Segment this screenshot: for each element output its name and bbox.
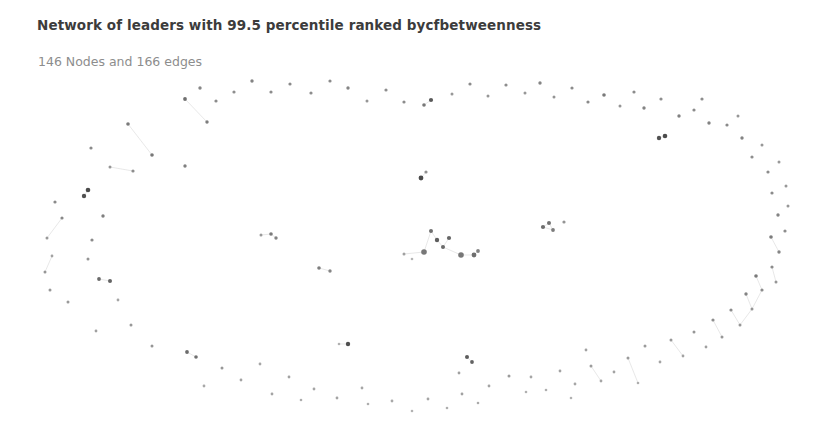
graph-node[interactable] xyxy=(185,350,189,354)
graph-node[interactable] xyxy=(721,336,724,339)
graph-node[interactable] xyxy=(508,375,511,378)
graph-node[interactable] xyxy=(574,383,577,386)
graph-node[interactable] xyxy=(644,345,647,348)
graph-node[interactable] xyxy=(346,86,349,89)
graph-node[interactable] xyxy=(309,91,312,94)
graph-node[interactable] xyxy=(487,95,490,98)
graph-node[interactable] xyxy=(570,397,573,400)
graph-node[interactable] xyxy=(131,169,134,172)
graph-node[interactable] xyxy=(269,232,273,236)
graph-node[interactable] xyxy=(361,387,364,390)
graph-node[interactable] xyxy=(751,308,754,311)
graph-node[interactable] xyxy=(663,134,668,139)
graph-node[interactable] xyxy=(545,389,548,392)
graph-node[interactable] xyxy=(766,170,769,173)
graph-node[interactable] xyxy=(391,400,394,403)
graph-node[interactable] xyxy=(51,255,54,258)
graph-node[interactable] xyxy=(288,376,291,379)
graph-node[interactable] xyxy=(259,363,262,366)
graph-node[interactable] xyxy=(769,235,773,239)
graph-node[interactable] xyxy=(586,100,589,103)
graph-node[interactable] xyxy=(419,176,424,181)
graph-node[interactable] xyxy=(744,292,747,295)
graph-node[interactable] xyxy=(700,97,703,100)
graph-node[interactable] xyxy=(117,299,120,302)
graph-node[interactable] xyxy=(424,170,427,173)
graph-node[interactable] xyxy=(317,266,321,270)
graph-node[interactable] xyxy=(205,120,208,123)
graph-node[interactable] xyxy=(776,213,779,216)
graph-node[interactable] xyxy=(328,79,331,82)
graph-node[interactable] xyxy=(441,245,445,249)
graph-node[interactable] xyxy=(338,343,341,346)
graph-node[interactable] xyxy=(590,365,593,368)
graph-node[interactable] xyxy=(422,103,426,107)
graph-node[interactable] xyxy=(465,355,469,359)
graph-node[interactable] xyxy=(221,367,224,370)
graph-node[interactable] xyxy=(366,100,369,103)
graph-node[interactable] xyxy=(250,79,253,82)
graph-node[interactable] xyxy=(670,339,673,342)
graph-node[interactable] xyxy=(49,289,52,292)
graph-node[interactable] xyxy=(403,253,406,256)
graph-node[interactable] xyxy=(87,258,90,261)
graph-node[interactable] xyxy=(240,379,243,382)
graph-node[interactable] xyxy=(613,371,616,374)
graph-node[interactable] xyxy=(90,238,93,241)
graph-node[interactable] xyxy=(271,393,274,396)
graph-node[interactable] xyxy=(725,123,728,126)
graph-node[interactable] xyxy=(705,346,708,349)
graph-node[interactable] xyxy=(754,274,758,278)
graph-node[interactable] xyxy=(97,277,101,281)
graph-node[interactable] xyxy=(44,271,47,274)
graph-node[interactable] xyxy=(346,342,350,346)
graph-node[interactable] xyxy=(677,114,680,117)
graph-node[interactable] xyxy=(429,229,433,233)
graph-node[interactable] xyxy=(126,122,130,126)
graph-node[interactable] xyxy=(551,228,555,232)
graph-node[interactable] xyxy=(429,98,433,102)
graph-node[interactable] xyxy=(488,385,491,388)
graph-node[interactable] xyxy=(411,258,414,261)
graph-node[interactable] xyxy=(411,410,414,413)
graph-node[interactable] xyxy=(778,161,781,164)
graph-node[interactable] xyxy=(739,324,742,327)
graph-node[interactable] xyxy=(108,279,112,283)
graph-node[interactable] xyxy=(525,391,528,394)
graph-node[interactable] xyxy=(214,99,217,102)
graph-node[interactable] xyxy=(707,121,710,124)
graph-node[interactable] xyxy=(770,265,773,268)
graph-node[interactable] xyxy=(446,407,449,410)
graph-node[interactable] xyxy=(402,100,405,103)
graph-node[interactable] xyxy=(547,221,551,225)
graph-node[interactable] xyxy=(657,136,661,140)
graph-node[interactable] xyxy=(553,96,556,99)
graph-node[interactable] xyxy=(642,106,645,109)
graph-node[interactable] xyxy=(203,385,206,388)
graph-node[interactable] xyxy=(470,360,474,364)
graph-node[interactable] xyxy=(447,236,451,240)
graph-node[interactable] xyxy=(740,136,743,139)
graph-node[interactable] xyxy=(60,216,63,219)
graph-node[interactable] xyxy=(693,331,696,334)
graph-node[interactable] xyxy=(787,205,790,208)
graph-node[interactable] xyxy=(384,88,387,91)
graph-node[interactable] xyxy=(313,388,316,391)
graph-node[interactable] xyxy=(750,155,753,158)
graph-node[interactable] xyxy=(458,372,461,375)
graph-node[interactable] xyxy=(570,86,573,89)
graph-node[interactable] xyxy=(435,238,439,242)
graph-node[interactable] xyxy=(336,397,339,400)
graph-node[interactable] xyxy=(761,144,764,147)
graph-node[interactable] xyxy=(562,220,565,223)
graph-node[interactable] xyxy=(785,185,788,188)
graph-node[interactable] xyxy=(183,164,186,167)
graph-node[interactable] xyxy=(541,225,545,229)
graph-node[interactable] xyxy=(151,345,154,348)
graph-node[interactable] xyxy=(602,93,606,97)
graph-node[interactable] xyxy=(737,115,740,118)
graph-node[interactable] xyxy=(770,191,773,194)
graph-node[interactable] xyxy=(95,330,98,333)
graph-node[interactable] xyxy=(183,97,187,101)
graph-node[interactable] xyxy=(101,214,104,217)
